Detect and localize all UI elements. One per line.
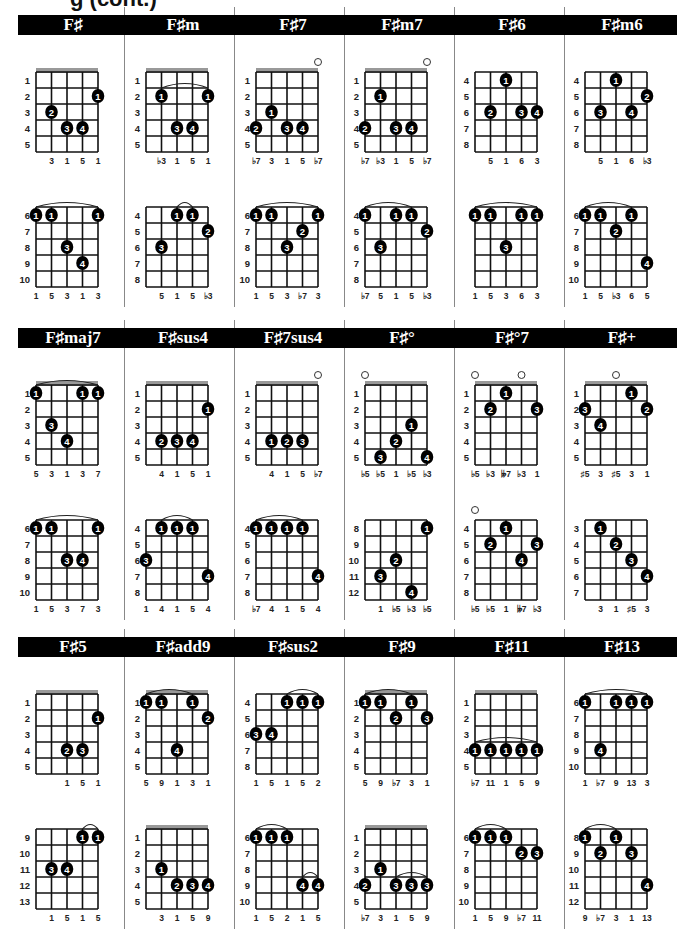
open-string-icon — [315, 372, 322, 379]
fret-number: 4 — [25, 436, 31, 447]
finger-number: 1 — [629, 697, 635, 708]
chord-diagram: 12345123415♭7 — [238, 375, 348, 495]
fret-number: 3 — [464, 420, 469, 431]
interval-label: 5 — [300, 156, 305, 166]
interval-label: 11 — [486, 778, 495, 788]
finger-number: 2 — [174, 880, 179, 891]
finger-number: 4 — [409, 123, 415, 134]
finger-number: 3 — [64, 555, 69, 566]
fret-number: 1 — [135, 832, 141, 843]
fret-number: 10 — [239, 274, 250, 285]
interval-label: 5 — [34, 469, 39, 479]
interval-label: ♭3 — [517, 469, 526, 479]
finger-number: 1 — [582, 697, 588, 708]
open-string-icon — [362, 372, 369, 379]
chord-diagram: 34567123431♯53 — [567, 510, 677, 630]
interval-label: 3 — [378, 913, 383, 923]
chord-column: F♯7123451234♭7315♭767891011123153♭73 — [238, 7, 348, 307]
fret-number: 5 — [245, 713, 251, 724]
fret-number: 4 — [354, 745, 360, 756]
finger-number: 3 — [300, 436, 305, 447]
finger-number: 3 — [534, 848, 539, 859]
finger-number: 3 — [284, 242, 289, 253]
interval-label: 5 — [269, 913, 274, 923]
finger-number: 1 — [33, 388, 39, 399]
chord-section: F♯maj71234511134531376789101113415373F♯s… — [0, 320, 667, 625]
fret-number: 4 — [135, 436, 141, 447]
interval-label: ♭5 — [471, 469, 480, 479]
fret-number: 5 — [354, 896, 360, 907]
finger-number: 4 — [644, 258, 650, 269]
fret-number: 3 — [25, 107, 30, 118]
finger-number: 1 — [159, 523, 165, 534]
fret-number: 5 — [245, 539, 251, 550]
fret-number: 7 — [464, 123, 469, 134]
fret-number: 4 — [25, 123, 31, 134]
finger-number: 1 — [503, 523, 509, 534]
chord-diagram: 123451113453137 — [18, 375, 128, 495]
finger-number: 1 — [409, 697, 415, 708]
finger-number: 3 — [424, 713, 429, 724]
finger-number: 1 — [613, 832, 619, 843]
finger-number: 2 — [284, 436, 289, 447]
finger-number: 1 — [534, 745, 540, 756]
fret-number: 8 — [574, 832, 579, 843]
finger-number: 2 — [488, 107, 493, 118]
chord-column: F♯m6456781234516♭36789101112415♭365 — [567, 7, 677, 307]
interval-label: 1 — [34, 604, 39, 614]
fret-number: 4 — [245, 436, 251, 447]
interval-label: ♭3 — [643, 156, 652, 166]
chord-column: F♯sus41234512344151456781113414154 — [128, 320, 238, 620]
chord-diagram: 6789101113415373 — [18, 510, 128, 630]
finger-number: 1 — [95, 91, 101, 102]
chord-name-header: F♯7sus4 — [238, 328, 348, 348]
interval-label: ♭3 — [612, 291, 621, 301]
chord-column: F♯add91234511124591311234512343159 — [128, 629, 238, 929]
fret-number: 5 — [354, 452, 360, 463]
fret-number: 8 — [245, 761, 250, 772]
finger-number: 4 — [629, 107, 635, 118]
finger-number: 1 — [629, 210, 635, 221]
chord-name-header: F♯sus2 — [238, 637, 348, 657]
interval-label: 1 — [394, 156, 399, 166]
interval-label: 9 — [425, 913, 430, 923]
interval-label: 1 — [254, 913, 259, 923]
fret-number: 6 — [135, 555, 140, 566]
fret-number: 2 — [354, 404, 359, 415]
interval-label: 1 — [629, 913, 634, 923]
finger-number: 1 — [95, 832, 101, 843]
chord-column: F♯m7123451234♭7♭315♭74567811123♭7515♭3 — [347, 7, 457, 307]
fret-number: 6 — [464, 107, 469, 118]
fret-number: 5 — [135, 226, 141, 237]
finger-number: 1 — [378, 697, 384, 708]
fret-number: 2 — [135, 404, 140, 415]
open-string-icon — [472, 507, 479, 514]
finger-number: 1 — [503, 745, 509, 756]
interval-label: 5 — [49, 291, 54, 301]
finger-number: 3 — [190, 880, 195, 891]
interval-label: 5 — [190, 156, 195, 166]
interval-label: 4 — [159, 469, 164, 479]
chord-diagram: 1234512344151 — [128, 375, 238, 495]
fret-number: 5 — [245, 139, 251, 150]
fret-number: 7 — [245, 571, 250, 582]
chord-diagram: 4567812345163 — [457, 62, 567, 182]
finger-number: 3 — [519, 107, 524, 118]
interval-label: 1 — [285, 778, 290, 788]
interval-label: 6 — [519, 156, 524, 166]
interval-label: 3 — [645, 604, 650, 614]
fret-number: 8 — [354, 274, 359, 285]
fret-number: 3 — [245, 420, 250, 431]
fret-number: 3 — [25, 420, 30, 431]
fret-number: 4 — [464, 75, 470, 86]
fret-number: 8 — [574, 139, 579, 150]
finger-number: 1 — [378, 864, 384, 875]
finger-number: 1 — [33, 210, 39, 221]
chord-column: F♯51234512315191011121311341515 — [18, 629, 128, 929]
chord-diagram: 123451234♭7315♭7 — [238, 62, 348, 182]
interval-label: 1 — [96, 156, 101, 166]
interval-label: 1 — [614, 604, 619, 614]
fret-number: 6 — [574, 107, 579, 118]
interval-label: ♭3 — [376, 156, 385, 166]
finger-number: 1 — [300, 523, 306, 534]
